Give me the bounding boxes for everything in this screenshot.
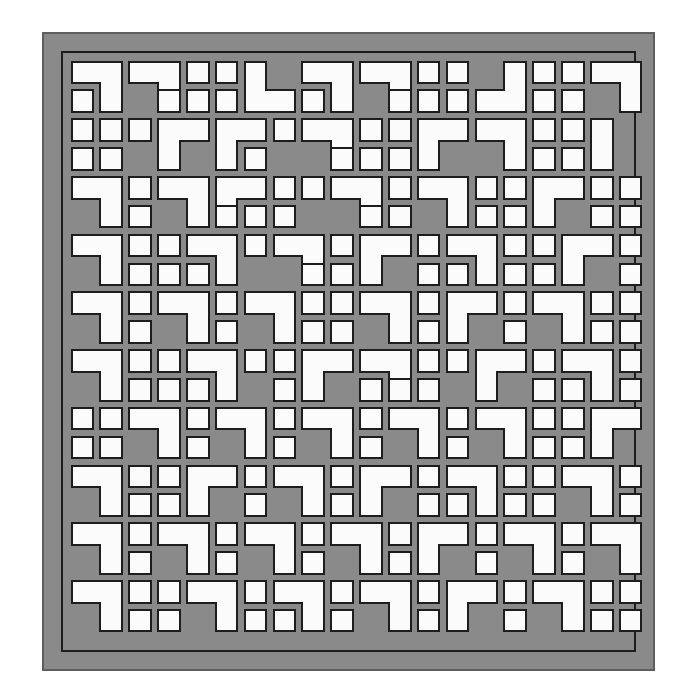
lattice-opening [418,379,440,401]
lattice-opening [158,466,180,488]
lattice-opening [620,350,642,372]
lattice-opening [360,379,382,401]
lattice-opening [620,466,642,488]
lattice-opening [187,90,209,112]
lattice-opening [187,264,209,286]
lattice-opening [129,523,151,545]
lattice-opening [331,494,353,516]
lattice-opening [302,292,324,314]
lattice-opening [418,350,440,372]
lattice-opening [418,610,440,632]
artwork-canvas [0,0,694,699]
lattice-opening [418,235,440,257]
lattice-opening [504,177,526,199]
lattice-opening [591,581,613,603]
lattice-opening [245,494,267,516]
lattice-opening [504,494,526,516]
lattice-opening [274,437,296,459]
lattice-opening [216,523,238,545]
lattice-opening [129,379,151,401]
lattice-opening [360,148,382,170]
lattice-opening [476,177,498,199]
lattice-opening [72,119,94,141]
lattice-opening [591,206,613,228]
lattice-opening [504,264,526,286]
lattice-opening [187,437,209,459]
lattice-opening [129,321,151,343]
lattice-opening [302,552,324,574]
lattice-opening [447,264,469,286]
lattice-opening [158,264,180,286]
lattice-opening [129,610,151,632]
lattice-panel [0,0,694,699]
lattice-opening [620,494,642,516]
lattice-opening [129,264,151,286]
lattice-opening [100,119,122,141]
lattice-opening [533,264,555,286]
lattice-opening [562,552,584,574]
lattice-opening [245,235,267,257]
lattice-opening [158,350,180,372]
lattice-opening [504,206,526,228]
lattice-opening [504,581,526,603]
lattice-opening [72,408,94,430]
lattice-opening [274,379,296,401]
lattice-opening [591,321,613,343]
lattice-opening [533,119,555,141]
lattice-opening [100,408,122,430]
lattice-opening [620,581,642,603]
lattice-opening [245,206,267,228]
lattice-opening [129,494,151,516]
lattice-opening [562,90,584,112]
lattice-opening [591,292,613,314]
lattice-opening [533,379,555,401]
lattice-opening [591,610,613,632]
lattice-opening [100,437,122,459]
lattice-opening [476,552,498,574]
lattice-opening [504,292,526,314]
lattice-opening [418,62,440,84]
lattice-opening [562,523,584,545]
lattice-opening [360,119,382,141]
lattice-opening [245,581,267,603]
lattice-opening [331,610,353,632]
lattice-opening [533,350,555,372]
lattice-opening [72,437,94,459]
lattice-opening [216,206,238,228]
lattice-opening [274,119,296,141]
lattice-opening [533,437,555,459]
lattice-opening [129,466,151,488]
lattice-opening [389,206,411,228]
lattice-opening [562,148,584,170]
lattice-opening [302,321,324,343]
lattice-opening [360,408,382,430]
lattice-opening [504,610,526,632]
lattice-opening [216,292,238,314]
lattice-opening [129,581,151,603]
lattice-opening [447,408,469,430]
lattice-opening [620,610,642,632]
lattice-opening [389,148,411,170]
lattice-opening [72,148,94,170]
lattice-opening [129,177,151,199]
lattice-opening [245,148,267,170]
lattice-opening [389,523,411,545]
lattice-opening [418,90,440,112]
lattice-opening [331,292,353,314]
lattice-opening [187,62,209,84]
lattice-opening [216,62,238,84]
lattice-opening [504,321,526,343]
lattice-opening [476,206,498,228]
lattice-opening [447,437,469,459]
lattice-opening [389,119,411,141]
lattice-opening [418,466,440,488]
lattice-opening [447,350,469,372]
lattice-opening [158,610,180,632]
lattice-opening [245,350,267,372]
lattice-opening [72,90,94,112]
lattice-opening [158,90,180,112]
lattice-opening [418,264,440,286]
lattice-opening [331,235,353,257]
lattice-opening [620,206,642,228]
lattice-opening [562,408,584,430]
